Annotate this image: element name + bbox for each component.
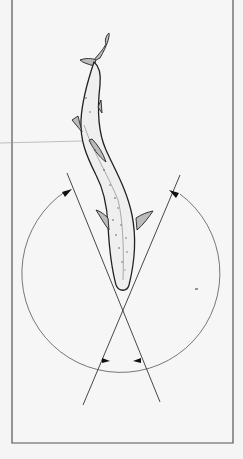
fish-angle-diagram — [0, 0, 243, 459]
